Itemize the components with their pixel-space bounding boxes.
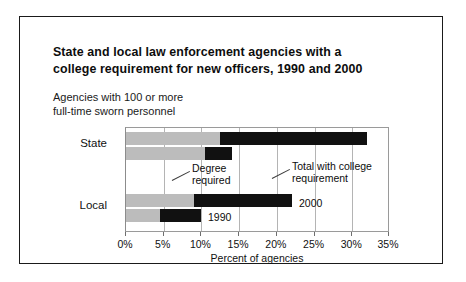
bar-state-2000 [126,132,367,145]
x-axis-title: Percent of agencies [125,252,389,264]
axis-tick [388,232,389,236]
subtitle-line-1: Agencies with 100 or more [53,91,183,103]
x-tick-label: 10% [190,238,211,250]
x-tick-label: 30% [341,238,362,250]
bar-segment-total-college [160,209,202,222]
axis-tick [200,232,201,236]
axis-tick [125,232,126,236]
bar-segment-total-college [194,194,292,207]
bar-segment-total-college [205,147,231,160]
annotation-degree-line-1: Degree [192,162,226,174]
annotation-degree-line-2: required [192,174,231,186]
axis-tick [351,232,352,236]
title-line-1: State and local law enforcement agencies… [53,45,341,59]
x-tick-label: 35% [377,238,398,250]
chart-page: State and local law enforcement agencies… [0,0,466,282]
x-axis-labels: 0% 5% 10% 15% 20% 25% 30% 35% [125,238,389,252]
x-tick-label: 0% [117,238,132,250]
annotation-total-college: Total with college requirement [292,160,372,184]
annotation-degree-required: Degree required [192,162,231,186]
bar-local-2000 [126,194,292,207]
x-tick-label: 20% [265,238,286,250]
bar-state-1990 [126,147,232,160]
axis-tick [276,232,277,236]
x-tick-label: 5% [155,238,170,250]
chart-subtitle: Agencies with 100 or more full-time swor… [53,90,333,118]
bar-local-1990 [126,209,201,222]
bar-segment-total-college [220,132,367,145]
axis-tick [163,232,164,236]
bar-segment-degree-required [126,132,220,145]
bar-segment-degree-required [126,194,194,207]
axis-tick [238,232,239,236]
annotation-year-2000: 2000 [299,197,322,209]
category-label-state: State [20,137,115,149]
x-axis-ticks [125,232,389,237]
category-label-local: Local [20,199,115,211]
bar-segment-degree-required [126,147,205,160]
annotation-year-1990: 1990 [208,211,231,223]
bar-segment-degree-required [126,209,160,222]
x-tick-label: 25% [303,238,324,250]
chart-panel: State and local law enforcement agencies… [19,16,443,264]
annotation-total-line-1: Total with college [292,160,372,172]
axis-tick [314,232,315,236]
annotation-total-line-2: requirement [292,172,372,184]
page-title: State and local law enforcement agencies… [53,44,443,78]
x-tick-label: 15% [228,238,249,250]
subtitle-line-2: full-time sworn personnel [53,104,333,118]
title-line-2: college requirement for new officers, 19… [53,61,443,78]
